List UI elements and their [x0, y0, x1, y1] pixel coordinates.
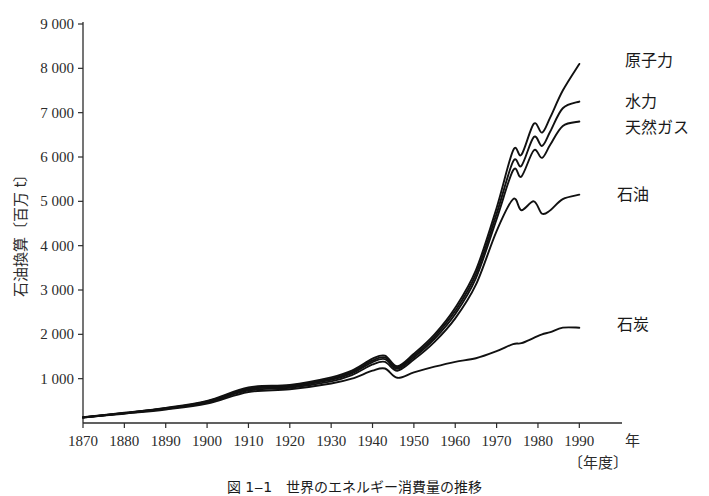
y-tick-label: 7 000 — [40, 105, 74, 121]
series-label-天然ガス: 天然ガス — [625, 118, 689, 137]
x-tick-label: 1990 — [564, 433, 594, 449]
y-tick-label: 5 000 — [40, 193, 74, 209]
series-leader-4 — [579, 325, 609, 328]
series-label-石油: 石油 — [617, 185, 649, 204]
series-line-4 — [83, 327, 579, 417]
x-tick-label: 1920 — [275, 433, 305, 449]
x-tick-label: 1880 — [109, 433, 139, 449]
figure-caption: 図 1‒1 世界のエネルギー消費量の推移 — [0, 476, 709, 496]
y-tick-label: 4 000 — [40, 238, 74, 254]
x-tick-label: 1980 — [523, 433, 553, 449]
series-label-原子力: 原子力 — [625, 51, 673, 70]
y-tick-label: 2 000 — [40, 326, 74, 342]
series-leader-2 — [579, 122, 617, 129]
x-tick-label: 1870 — [68, 433, 98, 449]
series-leader-0 — [579, 61, 617, 64]
y-tick-label: 8 000 — [40, 60, 74, 76]
series-label-水力: 水力 — [625, 92, 657, 111]
y-tick-label: 1 000 — [40, 371, 74, 387]
series-line-2 — [83, 122, 579, 418]
x-tick-label: 1970 — [482, 433, 512, 449]
series-line-1 — [83, 102, 579, 418]
x-tick-label: 1900 — [192, 433, 222, 449]
x-tick-label: 1930 — [316, 433, 346, 449]
series-line-0 — [83, 64, 579, 417]
y-tick-label: 6 000 — [40, 149, 74, 165]
y-axis-title: 石油換算〔百万 t〕 — [12, 167, 30, 298]
x-tick-label: 1950 — [399, 433, 429, 449]
x-tick-label: 1940 — [358, 433, 388, 449]
x-tick-label: 1890 — [151, 433, 181, 449]
series-label-石炭: 石炭 — [617, 315, 649, 334]
x-tick-label: 1960 — [440, 433, 470, 449]
x-axis-title: 年 — [625, 432, 640, 450]
x-axis-subtitle: 〔年度〕 — [568, 454, 628, 472]
y-tick-label: 9 000 — [40, 16, 74, 32]
x-tick-label: 1910 — [233, 433, 263, 449]
y-tick-label: 3 000 — [40, 282, 74, 298]
